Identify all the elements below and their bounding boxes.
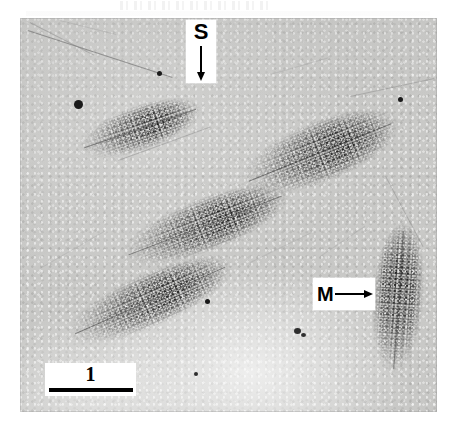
- arrow-right-icon: [335, 293, 373, 296]
- matrix-label: M: [317, 284, 334, 304]
- scan-artifact-top: [120, 1, 270, 10]
- electron-micrograph-figure: S M 1: [0, 0, 459, 430]
- arrow-down-icon: [200, 46, 203, 81]
- scale-bar: 1: [45, 363, 136, 396]
- spacer-annotation: S: [186, 20, 216, 83]
- scan-artifact-top-strip: [26, 11, 430, 16]
- film-grain-texture: [20, 18, 437, 412]
- scale-bar-label: 1: [86, 364, 96, 385]
- micrograph-plate: S M 1: [20, 18, 437, 412]
- spacer-label: S: [194, 21, 209, 43]
- scale-bar-line: [49, 388, 133, 392]
- matrix-annotation: M: [313, 278, 375, 310]
